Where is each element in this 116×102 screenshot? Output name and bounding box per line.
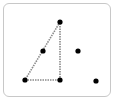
free-dot-2 [93,78,98,83]
free-dot-1 [75,48,80,53]
triangle-dot-figure [0,0,116,102]
midpoint-dot [40,48,45,53]
vertex-dot-bottom-right [57,77,62,82]
vertex-dot-bottom-left [22,77,27,82]
vertex-dot-top [57,19,62,24]
